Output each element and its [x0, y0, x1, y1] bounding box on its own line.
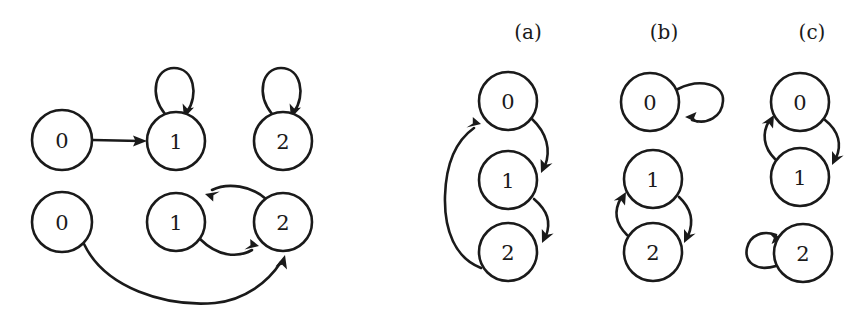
- edge-2-to-0-long-curve-left: [445, 117, 481, 268]
- node-label: 1: [501, 169, 514, 193]
- edge-2-to-1-curve-left: [614, 192, 627, 235]
- node-label: 0: [643, 91, 656, 115]
- node-label: 2: [646, 241, 659, 265]
- panel-b: (b) 0 1: [614, 20, 723, 281]
- node-label: 0: [793, 91, 806, 115]
- edge-0-to-1-curve-right: [532, 119, 553, 173]
- edge-1-self-loop: [156, 68, 194, 118]
- edge-1-to-2-curve-below: [200, 239, 259, 255]
- node-label: 2: [276, 211, 289, 235]
- node-0[interactable]: 0: [771, 73, 829, 131]
- edge-1-to-2-curve-right: [679, 197, 696, 243]
- node-0[interactable]: 0: [621, 73, 679, 131]
- edge-2-to-1-curve-above: [205, 186, 266, 202]
- node-1[interactable]: 1: [479, 151, 537, 209]
- node-2[interactable]: 2: [254, 193, 312, 251]
- node-label: 0: [501, 90, 514, 114]
- edge-1-to-2-curve-right: [534, 199, 554, 243]
- panel-caption-b: (b): [650, 20, 678, 44]
- panel-left-top: 0 1 2: [32, 68, 312, 170]
- node-label: 2: [501, 241, 514, 265]
- edge-0-to-2-long-arc: [84, 244, 287, 304]
- panel-c: (c) 0 1: [747, 20, 844, 282]
- node-1[interactable]: 1: [147, 112, 205, 170]
- node-0[interactable]: 0: [32, 110, 92, 170]
- edge-1-to-0-curve-left: [762, 115, 775, 159]
- panel-a: (a) 0 1: [445, 20, 554, 281]
- node-2[interactable]: 2: [774, 224, 832, 282]
- graph-figure: 0 1 2: [0, 0, 864, 316]
- edge-2-self-loop: [263, 68, 301, 118]
- panel-caption-c: (c): [799, 20, 826, 44]
- node-label: 0: [55, 211, 68, 235]
- node-label: 1: [646, 168, 659, 192]
- node-label: 2: [276, 130, 289, 154]
- node-2[interactable]: 2: [479, 223, 537, 281]
- node-label: 1: [169, 130, 182, 154]
- node-0[interactable]: 0: [479, 72, 537, 130]
- node-label: 1: [169, 211, 182, 235]
- figure-canvas: 0 1 2: [0, 0, 864, 316]
- edge-0-to-1-straight: [93, 136, 147, 147]
- edge-0-self-loop-right: [678, 83, 723, 123]
- node-label: 1: [793, 166, 806, 190]
- panel-caption-a: (a): [514, 20, 542, 44]
- node-label: 2: [796, 242, 809, 266]
- node-1[interactable]: 1: [771, 148, 829, 206]
- edge-0-to-1-curve-right: [825, 120, 844, 165]
- node-2[interactable]: 2: [624, 223, 682, 281]
- node-1[interactable]: 1: [624, 150, 682, 208]
- node-1[interactable]: 1: [147, 193, 205, 251]
- node-2[interactable]: 2: [254, 112, 312, 170]
- panel-left-bottom: 0 1 2: [32, 186, 312, 304]
- node-0[interactable]: 0: [32, 192, 92, 252]
- node-label: 0: [55, 129, 68, 153]
